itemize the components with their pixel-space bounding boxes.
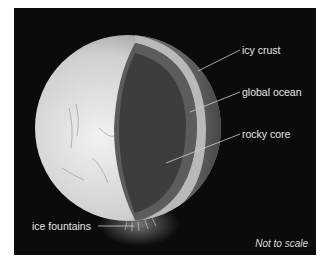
not-to-scale-note: Not to scale [255,238,308,249]
label-global-ocean: global ocean [242,86,302,98]
label-icy-crust: icy crust [242,44,281,56]
diagram-panel: icy crust global ocean rocky core ice fo… [14,8,316,255]
label-rocky-core: rocky core [242,128,290,140]
label-ice-fountains: ice fountains [32,220,91,232]
